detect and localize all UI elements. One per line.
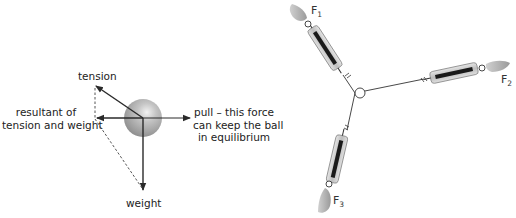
label-pull-line2: can keep the ball [193,119,275,132]
label-pull-line3: in equilibrium [193,131,275,144]
label-resultant-line2: tension and weight [2,119,90,132]
label-resultant-line1: resultant of [2,106,90,119]
newton-meter-f1 [304,20,347,77]
hand-f3 [318,188,331,213]
label-f2: F2 [501,73,512,88]
newton-meter-setup [290,4,510,213]
label-resultant: resultant of tension and weight [2,106,90,131]
hand-f2 [486,61,510,72]
label-tension: tension [78,70,117,83]
label-pull-line1: pull – this force [193,106,275,119]
label-pull: pull – this force can keep the ball in e… [193,106,275,144]
newton-meter-f3 [326,127,350,183]
central-ring [355,88,365,98]
label-f1: F1 [311,4,322,19]
label-weight: weight [126,197,161,210]
ball-force-diagram [95,86,190,190]
label-f3: F3 [333,194,344,209]
hand-f1 [290,4,307,21]
newton-meter-f2 [422,62,478,85]
